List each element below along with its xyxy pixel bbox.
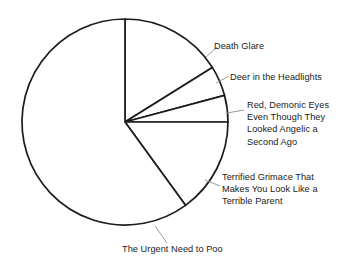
- pie-label-death-glare: Death Glare: [214, 40, 334, 52]
- pie-label-red-demonic-eyes: Red, Demonic Eyes Even Though They Looke…: [247, 99, 355, 148]
- pie-label-deer-in-the-headlights: Deer in the Headlights: [230, 71, 356, 83]
- pie-label-urgent-need-to-poo: The Urgent Need to Poo: [122, 243, 282, 255]
- leader-line-red-demonic-eyes: [227, 110, 244, 113]
- pie-chart-figure: Death Glare Deer in the Headlights Red, …: [0, 0, 356, 265]
- leader-line-urgent-need-to-poo: [155, 226, 167, 243]
- pie-label-terrified-grimace: Terrified Grimace That Makes You Look Li…: [222, 171, 346, 208]
